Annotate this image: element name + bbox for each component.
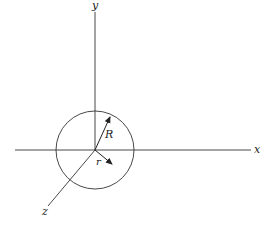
r-vector-label: r: [96, 156, 102, 167]
z-axis: [48, 150, 95, 206]
coordinate-diagram: y x z R r: [0, 0, 272, 232]
x-axis-label: x: [254, 143, 261, 156]
y-axis-label: y: [91, 0, 99, 12]
z-axis-label: z: [41, 205, 48, 218]
R-vector-label: R: [104, 128, 113, 141]
